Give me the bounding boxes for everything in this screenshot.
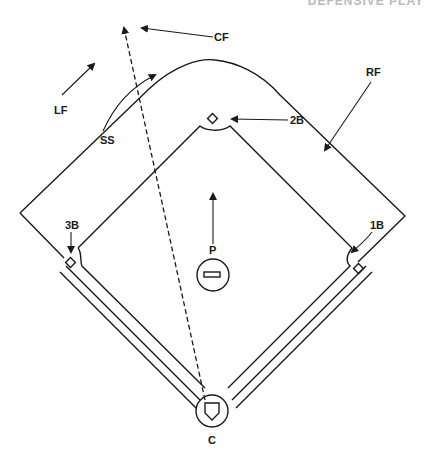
rf-arrow bbox=[325, 82, 371, 150]
label-2b: 2B bbox=[290, 114, 304, 126]
label-cf: CF bbox=[214, 31, 229, 43]
label-c: C bbox=[208, 434, 216, 446]
ball-path-dashed-line bbox=[124, 28, 205, 400]
label-p: P bbox=[209, 244, 216, 256]
second-base-arrow bbox=[232, 119, 288, 120]
third-base-bag bbox=[66, 258, 76, 268]
label-ss: SS bbox=[100, 134, 115, 146]
label-lf: LF bbox=[54, 104, 68, 116]
infield-outline bbox=[78, 126, 352, 388]
first-base-foul-line bbox=[232, 266, 372, 408]
label-3b: 3B bbox=[65, 219, 79, 231]
lf-arrow bbox=[62, 64, 94, 95]
first-base-bag bbox=[354, 264, 364, 274]
cf-arrow bbox=[142, 28, 213, 37]
label-rf: RF bbox=[366, 66, 381, 78]
ss-arrow bbox=[103, 75, 155, 131]
pitchers-mound bbox=[197, 259, 229, 291]
first-base-arrow bbox=[352, 232, 372, 252]
home-plate-icon bbox=[205, 403, 219, 420]
baseball-field-diagram: CF LF SS RF 2B 3B 1B P C bbox=[0, 0, 430, 465]
label-1b: 1B bbox=[370, 219, 384, 231]
second-base-bag bbox=[208, 114, 218, 124]
home-plate-area bbox=[196, 395, 228, 427]
third-base-foul-line bbox=[60, 266, 200, 408]
